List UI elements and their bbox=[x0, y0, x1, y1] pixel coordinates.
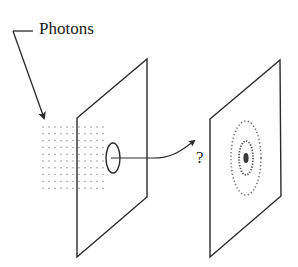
diagram-svg bbox=[0, 0, 298, 267]
photon-diffraction-diagram: Photons ? bbox=[0, 0, 298, 267]
central-spot bbox=[243, 153, 248, 163]
photon-beam-dots bbox=[42, 126, 104, 189]
diffraction-pattern bbox=[231, 121, 261, 195]
transition-arrow bbox=[111, 141, 194, 158]
question-mark-label: ? bbox=[196, 149, 204, 166]
photons-label: Photons bbox=[39, 20, 94, 37]
photons-callout-arrow bbox=[13, 31, 44, 118]
